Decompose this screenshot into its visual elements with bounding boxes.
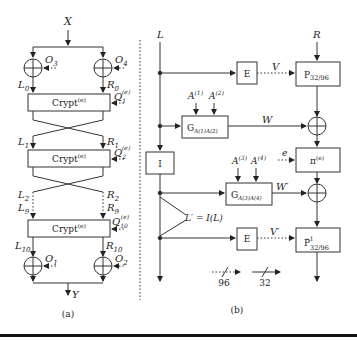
bottom-rule (0, 334, 357, 337)
crypt-label-10: Crypt(e) (52, 222, 86, 234)
xor-o1 (24, 257, 42, 275)
label-e: e (282, 148, 287, 158)
label-o4: O4 (115, 54, 128, 68)
input-r: R (312, 29, 321, 40)
label-o1: O1 (45, 253, 58, 267)
label-l9: L9 (17, 202, 30, 216)
e-top-label: E (244, 69, 251, 79)
label-a2: A(2) (208, 89, 225, 101)
legend-96: 96 (218, 278, 230, 288)
label-q10: Q10(e) (112, 213, 130, 229)
input-l: L (156, 29, 164, 40)
p-top-label: P32/96 (304, 70, 329, 82)
input-x: X (63, 15, 73, 28)
label-r9: R9 (106, 202, 120, 216)
label-l10: L10 (14, 240, 31, 254)
label-v: V (272, 61, 281, 72)
crypt-label-1: Crypt(e) (52, 96, 86, 108)
label-w-prime: W′ (276, 181, 289, 192)
caption-b: (b) (231, 305, 244, 315)
xor-o3 (24, 59, 42, 77)
label-l1: L1 (17, 136, 29, 150)
diagram-canvas: X O3 O4 L0 R0 Crypt(e) Q1(e) L1 R1 Crypt… (0, 0, 357, 340)
label-l0: L0 (17, 79, 30, 93)
label-w: W (262, 114, 273, 125)
label-a4: A(4) (250, 154, 267, 166)
label-q2: Q2(e) (114, 144, 131, 160)
legend-32: 32 (259, 278, 270, 288)
g2-label: GA(3)A(4) (231, 190, 262, 201)
label-o3: O3 (45, 54, 58, 68)
label-l-prime: L′ = I(L) (184, 213, 223, 223)
xor-o4 (94, 59, 112, 77)
label-r10: R10 (105, 240, 123, 254)
xor-o2 (94, 257, 112, 275)
label-a3: A(3) (231, 154, 248, 166)
label-r2: R2 (106, 189, 120, 203)
label-l2: L2 (17, 189, 30, 203)
p-inv-label: P32/96−1 (304, 235, 329, 252)
caption-a: (a) (62, 309, 74, 319)
label-v-prime: V′ (270, 226, 280, 237)
e-bottom-label: E (244, 234, 251, 244)
crypt-label-2: Crypt(e) (52, 152, 86, 164)
g1-label: GA(1)A(2) (187, 123, 218, 134)
pi-label: π(e) (310, 154, 324, 166)
label-a1: A(1) (187, 89, 204, 101)
label-o2: O2 (115, 253, 128, 267)
label-q1: Q1(e) (114, 88, 131, 104)
output-y: Y (72, 289, 80, 300)
i-box-label: I (158, 159, 162, 169)
